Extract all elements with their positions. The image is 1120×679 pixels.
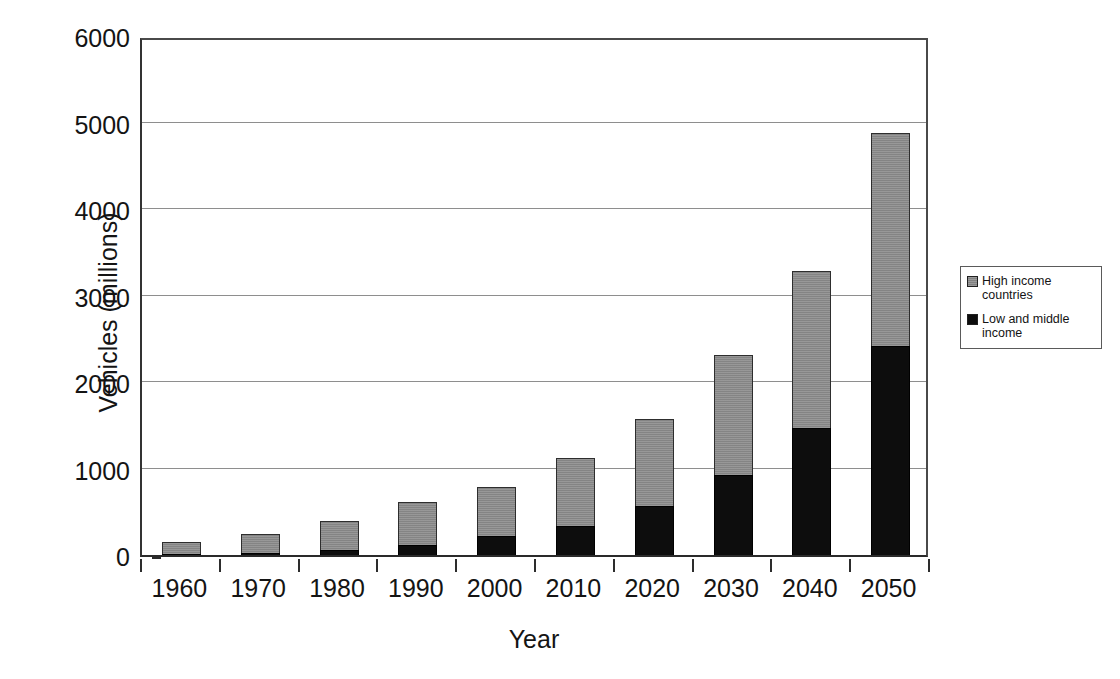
y-tick-label: 4000	[20, 197, 130, 226]
x-tick-label: 2040	[782, 574, 838, 603]
bar-segment-low-income	[635, 506, 674, 555]
x-tick-mark	[455, 559, 457, 572]
bar-group	[556, 458, 595, 555]
bar-group	[635, 419, 674, 555]
bar-group	[241, 534, 280, 555]
y-tick-label: 0	[20, 543, 130, 572]
x-tick-label: 1980	[309, 574, 365, 603]
x-tick-mark	[298, 559, 300, 572]
bar-segment-low-income	[792, 428, 831, 555]
legend-entry-high-income: High income countries	[967, 274, 1095, 302]
x-tick-label: 1960	[152, 574, 208, 603]
x-tick-label: 2000	[467, 574, 523, 603]
x-tick-label: 1990	[388, 574, 444, 603]
x-tick-mark	[692, 559, 694, 572]
legend-entry-low-income: Low and middle income	[967, 312, 1095, 340]
x-tick-mark	[376, 559, 378, 572]
stacked-bar-chart: Vehicles (millions) 01000200030004000500…	[0, 0, 1120, 679]
x-tick-label: 2010	[546, 574, 602, 603]
bar-segment-low-income	[162, 554, 201, 555]
x-tick-mark	[770, 559, 772, 572]
x-tick-mark	[140, 559, 142, 572]
x-tick-mark	[849, 559, 851, 572]
bar-segment-high-income	[398, 502, 437, 545]
bar-group	[320, 521, 359, 555]
x-axis-tick-marks	[140, 559, 928, 573]
bar-segment-high-income	[241, 534, 280, 553]
bar-segment-high-income	[635, 419, 674, 506]
bar-segment-high-income	[556, 458, 595, 526]
plot-area	[140, 38, 928, 557]
bars-layer	[142, 40, 926, 555]
x-tick-label: 2020	[624, 574, 680, 603]
y-tick-label: 3000	[20, 283, 130, 312]
bar-group	[477, 487, 516, 555]
bar-group	[398, 502, 437, 555]
bar-group	[162, 542, 201, 555]
bar-segment-high-income	[162, 542, 201, 554]
x-tick-label: 1970	[230, 574, 286, 603]
bar-segment-low-income	[320, 550, 359, 555]
x-axis-tick-labels: 1960197019801990200020102020203020402050	[140, 574, 928, 614]
y-tick-label: 1000	[20, 456, 130, 485]
bar-group	[871, 133, 910, 555]
x-tick-mark	[534, 559, 536, 572]
y-tick-label: 5000	[20, 110, 130, 139]
legend-swatch-low-income-icon	[967, 314, 978, 325]
bar-segment-low-income	[398, 545, 437, 555]
legend-swatch-high-income-icon	[967, 276, 978, 287]
x-tick-mark	[219, 559, 221, 572]
bar-segment-high-income	[871, 133, 910, 346]
legend-label-low-income: Low and middle income	[982, 312, 1095, 340]
bar-group	[792, 271, 831, 555]
bar-group	[714, 355, 753, 555]
bar-segment-low-income	[556, 526, 595, 555]
legend-label-high-income: High income countries	[982, 274, 1095, 302]
x-tick-label: 2050	[861, 574, 917, 603]
bar-segment-high-income	[477, 487, 516, 536]
y-tick-label: 2000	[20, 370, 130, 399]
bar-segment-low-income	[241, 553, 280, 555]
x-tick-label: 2030	[703, 574, 759, 603]
x-axis-title: Year	[140, 625, 928, 654]
bar-segment-low-income	[477, 536, 516, 555]
bar-segment-high-income	[320, 521, 359, 550]
x-tick-mark	[613, 559, 615, 572]
bar-segment-low-income	[714, 475, 753, 555]
y-tick-label: 6000	[20, 24, 130, 53]
bar-segment-low-income	[871, 346, 910, 555]
bar-segment-high-income	[714, 355, 753, 475]
chart-legend: High income countries Low and middle inc…	[960, 266, 1102, 349]
bar-segment-high-income	[792, 271, 831, 428]
y-axis-tick-labels: 0100020003000400050006000	[20, 38, 130, 557]
x-tick-mark	[928, 559, 930, 572]
